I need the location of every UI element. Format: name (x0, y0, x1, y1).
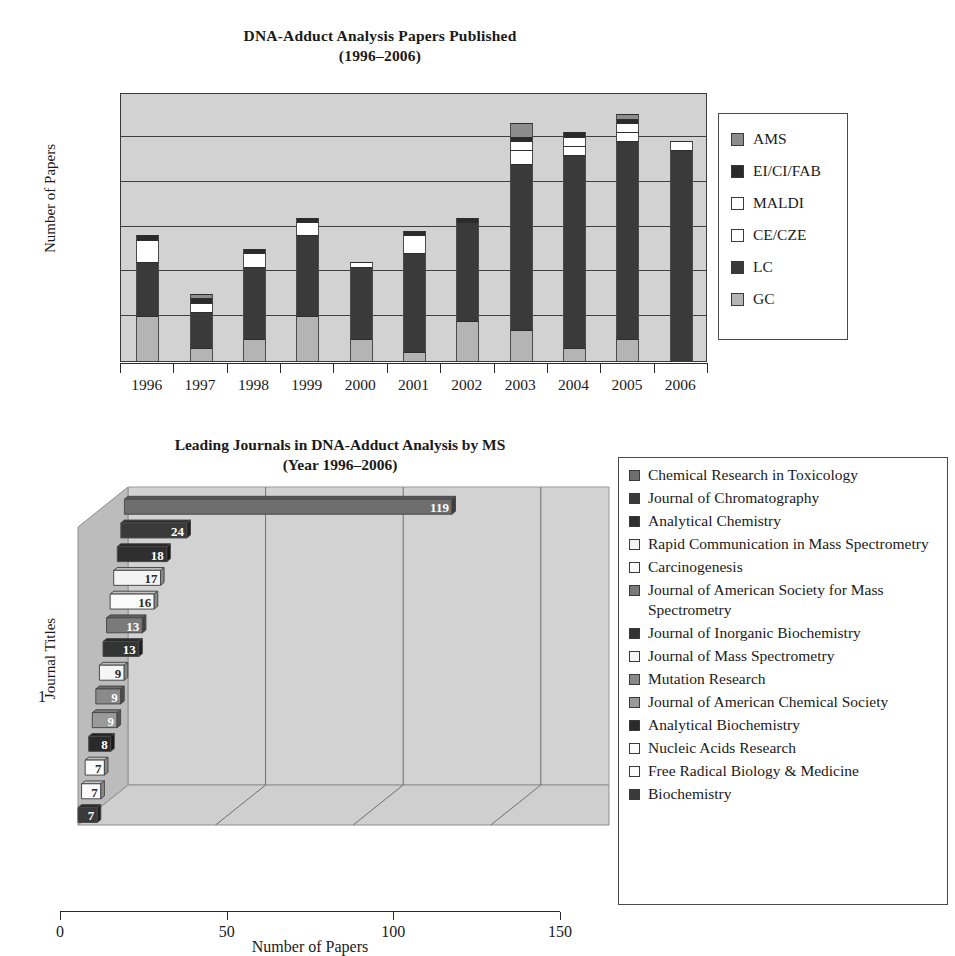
chart2-x-tick (560, 912, 561, 920)
chart2-legend-item[interactable]: Mutation Research (629, 669, 947, 689)
chart1-bar-segment (403, 235, 426, 253)
chart1-bar-segment (510, 123, 533, 136)
chart1-bar-segment (510, 164, 533, 330)
chart1-bar-segment (456, 222, 479, 321)
chart2-bar-end (121, 686, 125, 704)
chart2-legend-item[interactable]: Journal of Inorganic Biochemistry (629, 623, 947, 643)
chart2-legend-item[interactable]: Nucleic Acids Research (629, 738, 947, 758)
chart1-legend-item[interactable]: MALDI (731, 187, 847, 219)
chart1-y-axis-label: Number of Papers (42, 109, 59, 289)
chart1-legend-item[interactable]: GC (731, 283, 847, 315)
chart1-bar-segment (616, 114, 639, 118)
chart1-x-tick (707, 364, 708, 373)
chart1-bar-segment (456, 321, 479, 361)
chart2-legend-label: Analytical Chemistry (648, 511, 781, 531)
legend-swatch-icon (629, 470, 640, 481)
chart1-bar-segment (136, 240, 159, 262)
legend-swatch-icon (731, 197, 744, 210)
chart2-legend-label: Journal of American Society for Mass Spe… (648, 580, 947, 620)
chart1-bar-segment (190, 312, 213, 348)
chart2-bar-value-label: 9 (108, 714, 115, 729)
chart2-title: Leading Journals in DNA-Adduct Analysis … (70, 435, 610, 475)
chart2-bar-end (154, 591, 158, 609)
chart1-legend-item[interactable]: EI/CI/FAB (731, 155, 847, 187)
chart2-legend-label: Carcinogenesis (648, 557, 743, 577)
chart1-bar-segment (616, 119, 639, 123)
chart2-y-axis-label: Journal Titles (42, 569, 59, 749)
legend-swatch-icon (629, 516, 640, 527)
chart1-bar-segment (243, 249, 266, 253)
chart1-plot-area (120, 93, 707, 362)
chart2-bar-end (167, 544, 171, 562)
chart2-legend-item[interactable]: Analytical Biochemistry (629, 715, 947, 735)
chart2-legend-item[interactable]: Carcinogenesis (629, 557, 947, 577)
chart2-legend-item[interactable]: Journal of Chromatography (629, 488, 947, 508)
legend-swatch-icon (629, 651, 640, 662)
chart2-legend-item[interactable]: Journal of American Society for Mass Spe… (629, 580, 947, 620)
chart2-legend-item[interactable]: Journal of American Chemical Society (629, 692, 947, 712)
chart2-bar-end (142, 615, 146, 633)
chart1-bar-segment (350, 262, 373, 266)
chart1-legend-item[interactable]: CE/CZE (731, 219, 847, 251)
chart1-title-line1: DNA-Adduct Analysis Papers Published (120, 26, 640, 46)
chart1-x-tick (440, 364, 441, 373)
chart1-legend-label: LC (753, 258, 773, 276)
chart2-legend-item[interactable]: Biochemistry (629, 784, 947, 804)
chart2-legend-item[interactable]: Free Radical Biology & Medicine (629, 761, 947, 781)
chart1-x-tick (654, 364, 655, 373)
legend-swatch-icon (629, 674, 640, 685)
chart2-bar-end (160, 567, 164, 585)
chart1-x-tick (547, 364, 548, 373)
chart1-bar-segment (190, 303, 213, 312)
chart1-bar-segment (136, 316, 159, 361)
chart1-x-tick-label: 2005 (600, 376, 654, 394)
chart2-bar-end (101, 781, 105, 799)
chart2-bar-value-label: 13 (126, 619, 140, 634)
chart2-bar-end (452, 496, 456, 514)
chart2-legend-label: Analytical Biochemistry (648, 715, 800, 735)
chart1-x-tick-label: 1996 (120, 376, 174, 394)
chart1-bar-segment (510, 330, 533, 361)
chart2-bar-end (111, 733, 115, 751)
chart1-x-tick (387, 364, 388, 373)
chart2-bar-end (124, 662, 128, 680)
chart1-bar-segment (243, 253, 266, 266)
legend-swatch-icon (731, 293, 744, 306)
chart1-x-tick-label: 2001 (387, 376, 441, 394)
legend-swatch-icon (731, 229, 744, 242)
horizontal-bar-chart: Leading Journals in DNA-Adduct Analysis … (0, 415, 955, 925)
chart1-bar-segment (296, 218, 319, 222)
chart1-x-tick (494, 364, 495, 373)
legend-swatch-icon (731, 133, 744, 146)
chart2-bar-end (117, 710, 121, 728)
chart1-bar-segment (616, 132, 639, 141)
legend-swatch-icon (731, 165, 744, 178)
chart2-legend-item[interactable]: Chemical Research in Toxicology (629, 465, 947, 485)
chart2-bar-value-label: 18 (151, 548, 165, 563)
chart2-legend-label: Journal of Mass Spectrometry (648, 646, 834, 666)
legend-swatch-icon (629, 697, 640, 708)
chart2-legend-item[interactable]: Analytical Chemistry (629, 511, 947, 531)
legend-swatch-icon (629, 585, 640, 596)
chart2-bar-value-label: 7 (95, 761, 102, 776)
chart2-legend-item[interactable]: Journal of Mass Spectrometry (629, 646, 947, 666)
chart1-legend-item[interactable]: LC (731, 251, 847, 283)
chart2-bar-value-label: 9 (115, 666, 122, 681)
chart1-x-tick-label: 2006 (653, 376, 707, 394)
chart1-title: DNA-Adduct Analysis Papers Published (19… (120, 26, 640, 66)
chart1-bar-segment (190, 294, 213, 298)
chart1-bar-segment (670, 150, 693, 361)
chart1-bar-segment (350, 267, 373, 339)
chart2-legend-item[interactable]: Rapid Communication in Mass Spectrometry (629, 534, 947, 554)
chart2-legend-label: Free Radical Biology & Medicine (648, 761, 859, 781)
chart2-x-axis: 050100150 (60, 911, 560, 912)
chart2-x-tick (60, 912, 61, 920)
chart1-bar-segment (403, 253, 426, 352)
chart1-legend-item[interactable]: AMS (731, 123, 847, 155)
chart2-bar-value-label: 7 (91, 785, 98, 800)
chart1-x-tick-label: 2000 (333, 376, 387, 394)
chart1-bar-segment (296, 235, 319, 316)
legend-swatch-icon (629, 720, 640, 731)
chart1-x-tick-label: 1997 (173, 376, 227, 394)
chart1-title-line2: (1996–2006) (120, 46, 640, 66)
